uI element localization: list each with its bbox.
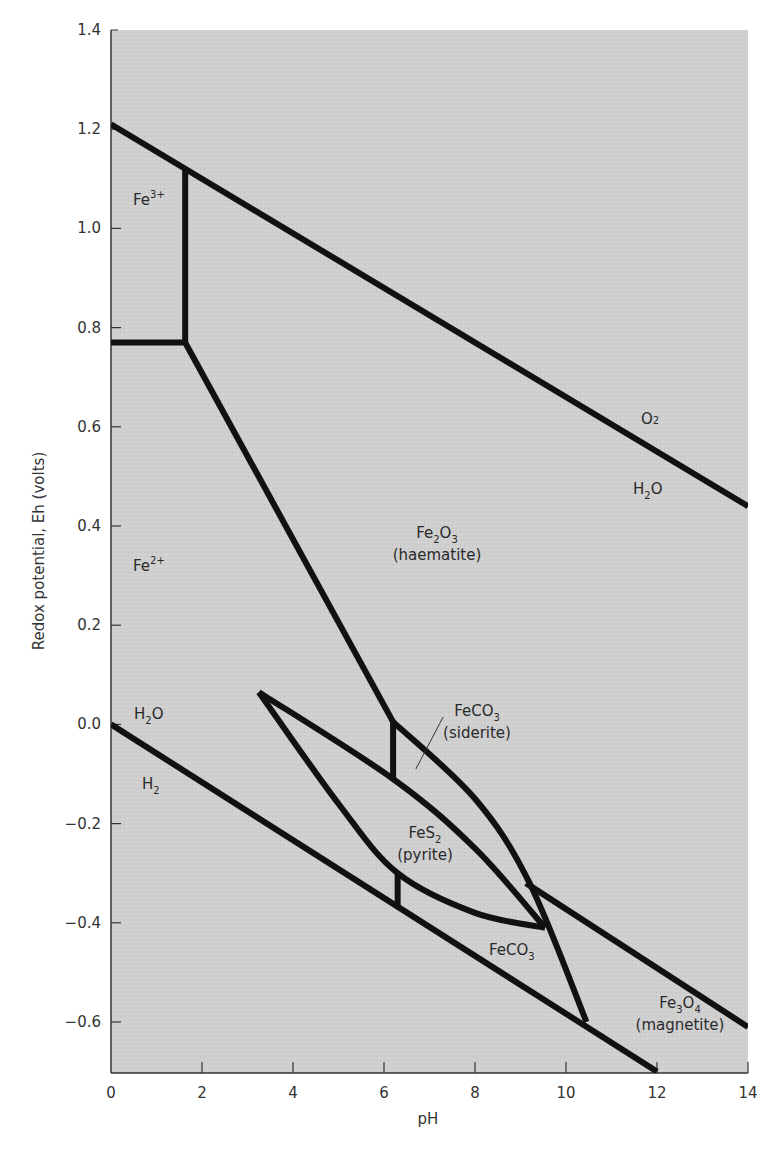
x-axis-title: pH [418, 1110, 439, 1128]
y-axis-title: Redox potential, Eh (volts) [30, 452, 48, 651]
y-tick-label: 1.0 [77, 219, 101, 237]
x-tick-label: 2 [197, 1084, 207, 1102]
y-tick-label: −0.4 [65, 914, 101, 932]
y-tick-label: 1.2 [77, 120, 101, 138]
y-tick-label: −0.2 [65, 815, 101, 833]
x-tick-label: 0 [106, 1084, 116, 1102]
label-siderite-formula: FeCO3 [454, 702, 500, 723]
y-tick-label: 0.0 [77, 715, 101, 733]
label-pyrite-name: (pyrite) [397, 846, 453, 864]
y-tick-label: 0.4 [77, 517, 101, 535]
x-tick-label: 6 [379, 1084, 389, 1102]
x-tick-label: 12 [647, 1084, 666, 1102]
label-haematite-name: (haematite) [393, 546, 482, 564]
y-tick-label: −0.6 [65, 1013, 101, 1031]
x-tick-label: 10 [556, 1084, 575, 1102]
x-tick-label: 14 [738, 1084, 757, 1102]
y-tick-label: 1.4 [77, 21, 101, 39]
label-magnetite-name: (magnetite) [636, 1016, 725, 1034]
eh-ph-diagram: 1.41.21.00.80.60.40.20.0−0.2−0.4−0.6 024… [0, 0, 784, 1158]
label-feco3-lower: FeCO3 [489, 941, 535, 962]
y-tick-label: 0.8 [77, 319, 101, 337]
x-tick-label: 4 [288, 1084, 298, 1102]
x-tick-label: 8 [470, 1084, 480, 1102]
label-siderite-name: (siderite) [443, 724, 511, 742]
y-tick-label: 0.2 [77, 616, 101, 634]
y-tick-label: 0.6 [77, 418, 101, 436]
